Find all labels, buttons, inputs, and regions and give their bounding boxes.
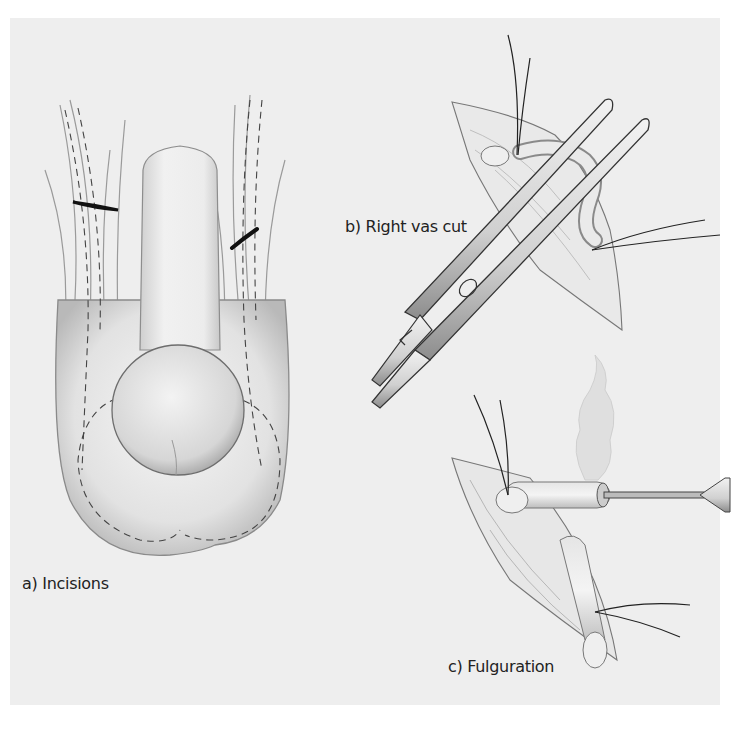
caption-fulguration: c) Fulguration [448, 657, 554, 676]
panel-c-drawing [452, 355, 730, 668]
caption-incisions: a) Incisions [22, 574, 109, 593]
caption-right-vas-cut: b) Right vas cut [345, 217, 467, 236]
illustration [0, 0, 741, 730]
panel-a-drawing [45, 95, 289, 555]
